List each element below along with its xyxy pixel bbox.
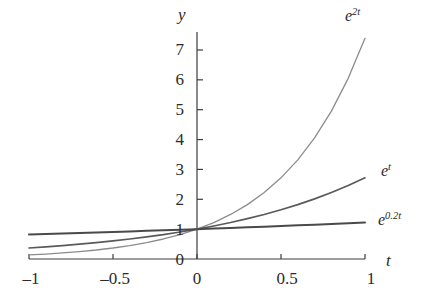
y-tick-label-2: 2 (162, 191, 184, 208)
y-tick-label-4: 4 (162, 131, 184, 148)
chart-plot-area (0, 0, 421, 303)
x-tick-label-minus-1: –1 (1, 270, 61, 287)
exponential-functions-chart: y t 7 6 5 4 3 2 1 0 –1 –0.5 0 0.5 1 e2t … (0, 0, 421, 303)
curve-label-e2t-exponent: 2t (352, 6, 360, 17)
x-tick-label-0: 0 (167, 270, 227, 287)
y-axis-label: y (178, 6, 186, 23)
curve-label-e02t-exponent: 0.2t (385, 210, 401, 221)
y-tick-label-7: 7 (162, 41, 184, 58)
y-tick-label-1: 1 (162, 221, 184, 238)
curve-label-e02t: e0.2t (378, 212, 401, 228)
x-tick-label-1: 1 (341, 270, 401, 287)
y-tick-label-3: 3 (162, 161, 184, 178)
curve-label-et-exponent: t (388, 161, 391, 172)
y-tick-label-5: 5 (162, 101, 184, 118)
y-tick-label-0: 0 (162, 251, 184, 268)
y-tick-label-6: 6 (162, 71, 184, 88)
x-axis-label: t (386, 252, 391, 269)
curve-label-et: et (381, 163, 391, 179)
curve-label-e2t: e2t (345, 8, 360, 24)
x-tick-label-0-5: 0.5 (257, 270, 317, 287)
x-tick-label-minus-0-5: –0.5 (85, 270, 145, 287)
